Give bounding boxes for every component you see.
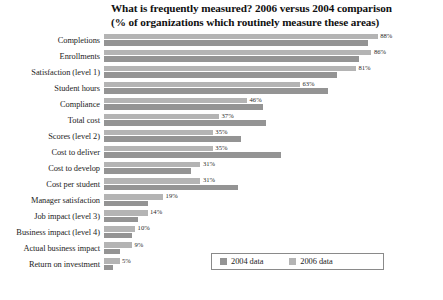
bar-group: 35% [104, 129, 443, 144]
bar-2006 [104, 162, 200, 168]
category-label: Total cost [0, 116, 104, 125]
bar-2004 [104, 201, 148, 207]
bar-2004 [104, 217, 138, 223]
bar-2004 [104, 56, 359, 62]
value-label: 63% [300, 80, 315, 87]
bar-2004 [104, 88, 328, 94]
bar-2006 [104, 82, 300, 88]
bar-2004 [104, 185, 238, 191]
swatch-2006-icon [289, 258, 296, 265]
category-label: Return on investment [0, 260, 104, 269]
legend-label-2004: 2004 data [231, 257, 263, 266]
bar-2004 [104, 136, 241, 142]
category-label: Job impact (level 3) [0, 212, 104, 221]
bar-group: 81% [104, 65, 443, 80]
bar-2004 [104, 40, 368, 46]
category-label: Scores (level 2) [0, 132, 104, 141]
value-label: 19% [163, 192, 178, 199]
bar-2006 [104, 210, 148, 216]
bar-2004 [104, 168, 191, 174]
value-label: 35% [213, 144, 228, 151]
chart-row: Completions88% [0, 32, 443, 48]
bar-2004 [104, 104, 263, 110]
bar-group: 31% [104, 161, 443, 176]
chart-row: Compliance46% [0, 96, 443, 112]
chart-row: Student hours63% [0, 80, 443, 96]
bar-2004 [104, 72, 337, 78]
chart-row: Job impact (level 3)14% [0, 209, 443, 225]
value-label: 5% [120, 257, 131, 264]
value-label: 31% [200, 176, 215, 183]
category-label: Satisfaction (level 1) [0, 68, 104, 77]
swatch-2004-icon [220, 258, 227, 265]
category-label: Completions [0, 36, 104, 45]
bar-2004 [104, 233, 132, 239]
chart-title-line-1: What is frequently measured? 2006 versus… [111, 1, 441, 15]
chart-container: What is frequently measured? 2006 versus… [0, 0, 443, 300]
bar-group: 86% [104, 49, 443, 64]
value-label: 9% [132, 241, 143, 248]
bar-2006 [104, 258, 120, 264]
bar-2006 [104, 98, 247, 104]
value-label: 86% [371, 48, 386, 55]
plot-area: Completions88%Enrollments86%Satisfaction… [0, 32, 443, 264]
value-label: 88% [378, 32, 393, 39]
category-label: Manager satisfaction [0, 196, 104, 205]
category-label: Actual business impact [0, 244, 104, 253]
bar-group: 19% [104, 193, 443, 208]
bar-group: 31% [104, 177, 443, 192]
bar-2006 [104, 66, 356, 72]
chart-row: Business impact (level 4)10% [0, 225, 443, 241]
chart-row: Cost to deliver35% [0, 144, 443, 160]
category-label: Student hours [0, 84, 104, 93]
category-label: Cost to deliver [0, 148, 104, 157]
legend-item-2006: 2006 data [289, 257, 332, 266]
chart-row: Cost to develop31% [0, 160, 443, 176]
chart-row: Enrollments86% [0, 48, 443, 64]
bar-2004 [104, 152, 281, 158]
chart-row: Manager satisfaction19% [0, 192, 443, 208]
value-label: 81% [356, 64, 371, 71]
bar-group: 46% [104, 97, 443, 112]
chart-row: Total cost37% [0, 112, 443, 128]
chart-title-line-2: (% of organizations which routinely meas… [111, 15, 441, 29]
bar-2006 [104, 50, 371, 56]
bar-2006 [104, 194, 163, 200]
bar-2004 [104, 265, 113, 271]
category-label: Cost to develop [0, 164, 104, 173]
chart-legend: 2004 data 2006 data [211, 253, 384, 270]
legend-label-2006: 2006 data [300, 257, 332, 266]
chart-title: What is frequently measured? 2006 versus… [111, 1, 441, 29]
legend-item-2004: 2004 data [220, 257, 263, 266]
bar-group: 10% [104, 225, 443, 240]
chart-row: Satisfaction (level 1)81% [0, 64, 443, 80]
category-label: Business impact (level 4) [0, 228, 104, 237]
bar-2006 [104, 130, 213, 136]
chart-row: Cost per student31% [0, 176, 443, 192]
bar-group: 37% [104, 113, 443, 128]
chart-row: Scores (level 2)35% [0, 128, 443, 144]
value-label: 14% [148, 208, 163, 215]
value-label: 46% [247, 96, 262, 103]
bar-2004 [104, 249, 120, 255]
bar-2006 [104, 178, 200, 184]
category-label: Cost per student [0, 180, 104, 189]
bar-2006 [104, 146, 213, 152]
category-label: Enrollments [0, 52, 104, 61]
value-label: 31% [200, 160, 215, 167]
bar-group: 35% [104, 145, 443, 160]
bar-2006 [104, 114, 219, 120]
bar-2004 [104, 120, 266, 126]
bar-2006 [104, 34, 378, 40]
bar-group: 14% [104, 209, 443, 224]
bar-group: 88% [104, 33, 443, 48]
bar-group: 63% [104, 81, 443, 96]
value-label: 35% [213, 128, 228, 135]
bar-2006 [104, 242, 132, 248]
bar-2006 [104, 226, 135, 232]
category-label: Compliance [0, 100, 104, 109]
value-label: 37% [219, 112, 234, 119]
value-label: 10% [135, 224, 150, 231]
